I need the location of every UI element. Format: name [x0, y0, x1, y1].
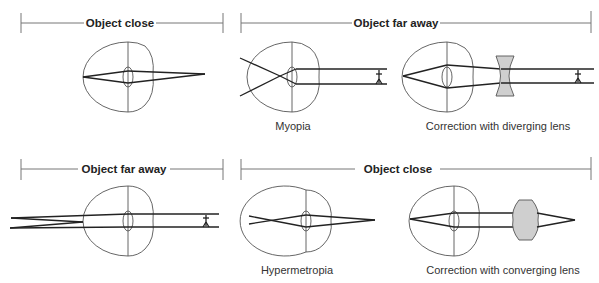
- object-figure-icon: [203, 215, 209, 227]
- eye-hypermetropia: [240, 186, 375, 256]
- caption-correction-diverging: Correction with diverging lens: [426, 120, 571, 132]
- eye-normal-far: [10, 186, 219, 256]
- header-object-close-top: Object close: [86, 17, 154, 29]
- caption-myopia: Myopia: [275, 120, 311, 132]
- eye-myopia: [240, 42, 387, 112]
- header-object-far-bottom: Object far away: [81, 163, 167, 175]
- eye-hypermetropia-corrected: [409, 186, 575, 256]
- header-object-close-bottom: Object close: [364, 163, 432, 175]
- object-figure-icon: [376, 70, 382, 84]
- eye-optics-diagram: Object close Object far away Myopi: [0, 0, 599, 283]
- caption-hypermetropia: Hypermetropia: [261, 264, 334, 276]
- converging-lens-icon: [513, 200, 539, 240]
- header-object-far-top: Object far away: [353, 17, 439, 29]
- caption-correction-converging: Correction with converging lens: [426, 264, 580, 276]
- diverging-lens-icon: [496, 56, 514, 96]
- eye-normal-near: [83, 42, 205, 112]
- object-figure-icon: [575, 70, 581, 83]
- eye-myopia-corrected: [402, 42, 594, 112]
